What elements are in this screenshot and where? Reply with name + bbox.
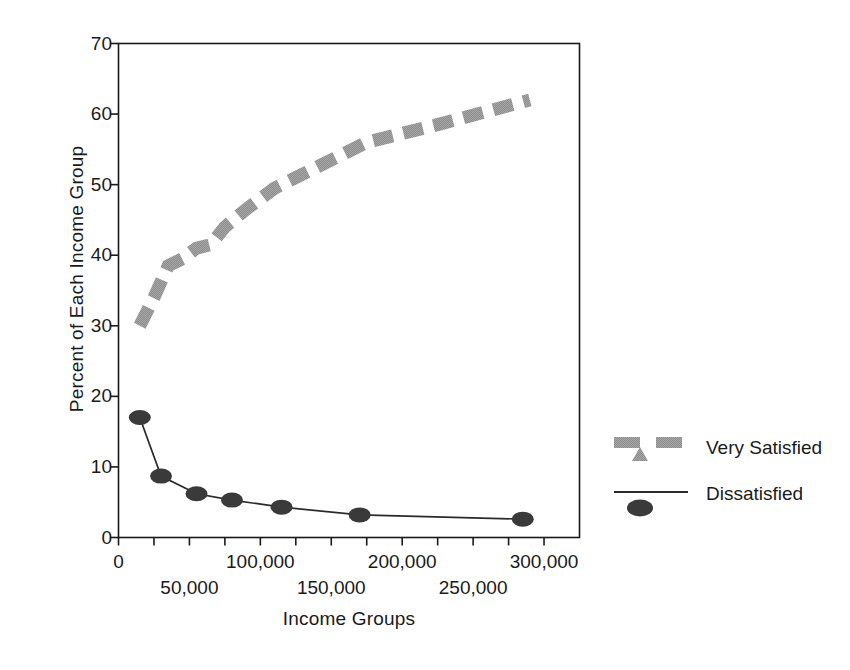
legend-item-dissatisfied[interactable]: Dissatisfied xyxy=(610,475,845,519)
x-tick-label: 0 xyxy=(113,552,124,571)
legend-key-dissatisfied xyxy=(610,475,702,519)
x-tick-label: 300,000 xyxy=(510,552,579,571)
x-axis-tick-labels-upper: 0100,000200,000300,000 xyxy=(0,552,850,576)
plot-frame xyxy=(119,44,580,538)
legend-label-dissatisfied: Dissatisfied xyxy=(706,484,803,503)
y-axis-title: Percent of Each Income Group xyxy=(66,84,88,474)
x-tick-label: 100,000 xyxy=(226,552,295,571)
data-point-dissatisfied xyxy=(271,500,293,515)
data-point-dissatisfied xyxy=(150,469,172,484)
x-tick-label: 200,000 xyxy=(368,552,437,571)
x-axis-ticks xyxy=(119,538,545,546)
legend-item-very-satisfied[interactable]: Very Satisfied xyxy=(610,425,845,469)
x-tick-label: 50,000 xyxy=(160,578,218,597)
legend-label-very-satisfied: Very Satisfied xyxy=(706,438,822,457)
data-point-dissatisfied xyxy=(221,493,243,508)
chart-legend: Very Satisfied Dissatisfied xyxy=(610,425,845,530)
legend-key-very-satisfied xyxy=(610,425,702,469)
data-point-dissatisfied xyxy=(512,512,534,527)
x-axis-title: Income Groups xyxy=(118,608,580,630)
data-point-dissatisfied xyxy=(186,486,208,501)
y-tick-label: 70 xyxy=(66,34,112,53)
x-axis-tick-labels-lower: 50,000150,000250,000 xyxy=(0,578,850,602)
series-very-satisfied xyxy=(140,100,530,326)
chart-figure: 010203040506070 0100,000200,000300,000 5… xyxy=(0,0,850,670)
data-point-dissatisfied xyxy=(349,507,371,522)
data-point-dissatisfied xyxy=(129,410,151,425)
y-tick-label: 0 xyxy=(66,528,112,547)
series-dissatisfied xyxy=(129,410,534,527)
x-tick-label: 250,000 xyxy=(439,578,508,597)
x-tick-label: 150,000 xyxy=(297,578,366,597)
